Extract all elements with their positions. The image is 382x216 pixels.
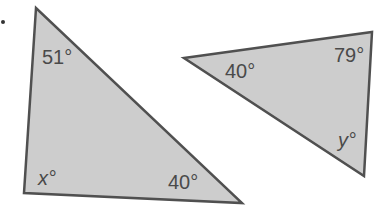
left-triangle-shape (24, 8, 242, 203)
angle-label-79: 79° (334, 44, 364, 66)
left-triangle: 51° x° 40° (24, 8, 242, 203)
angle-label-x: x° (37, 167, 56, 189)
angle-label-51: 51° (42, 46, 72, 68)
angle-label-40-right: 40° (225, 60, 255, 82)
angle-label-y: y° (336, 129, 356, 151)
bullet-dot (1, 20, 5, 24)
triangle-figure: 51° x° 40° 40° 79° y° (0, 0, 382, 216)
angle-label-40-left: 40° (168, 171, 198, 193)
right-triangle: 40° 79° y° (184, 32, 372, 176)
